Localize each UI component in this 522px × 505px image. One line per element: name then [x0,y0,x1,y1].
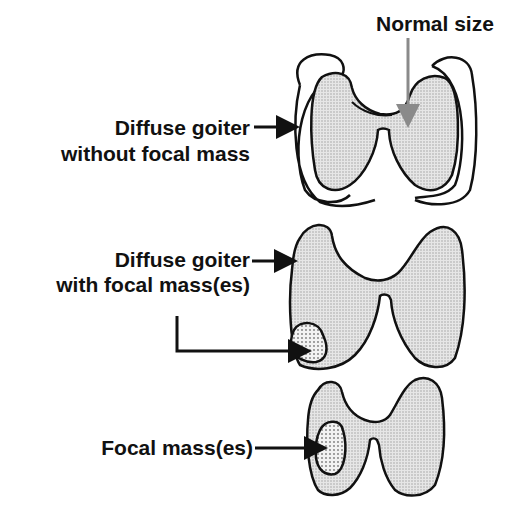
thyroid-diagram: Normal size Diffuse goiter without focal… [0,0,522,505]
label-diffuse-with-line2: with focal mass(es) [10,273,250,297]
label-diffuse-with-line1: Diffuse goiter [60,248,250,272]
label-diffuse-without-line2: without focal mass [15,142,250,166]
focal-mass-figure [307,378,444,495]
label-diffuse-without-line1: Diffuse goiter [60,116,250,140]
diffuse-goiter-without-mass-figure [295,54,476,206]
diffuse-goiter-with-mass-figure [290,225,465,369]
focal-mass-pointer-arrow [177,316,306,351]
label-normal-size: Normal size [376,12,494,36]
label-focal-masses: Focal mass(es) [40,436,253,460]
